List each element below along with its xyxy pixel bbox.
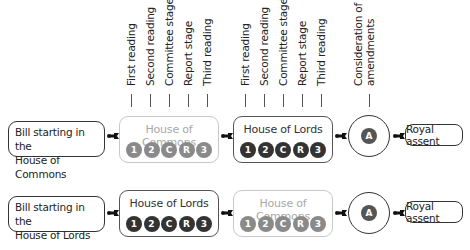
stage-second-reading-icon: 2 [258, 142, 274, 158]
start-label-line2: House of Lords [15, 228, 98, 242]
stage-report-icon: R [179, 216, 195, 232]
label-amendments: amendments [364, 19, 376, 86]
stage-second-reading-icon: 2 [258, 216, 274, 232]
stage-committee-icon: C [161, 216, 177, 232]
amendments-circle: A [348, 115, 390, 157]
tick-line [245, 94, 246, 107]
tick-line [188, 94, 189, 107]
start-label-line2: House of Commons [15, 153, 98, 181]
arrow-connector-icon [393, 133, 405, 139]
stage-third-reading-icon: 3 [196, 216, 212, 232]
start-label-line1: Bill starting in the [15, 200, 98, 228]
stage-third-reading-icon: 3 [196, 142, 212, 158]
house-box-lords: House of Lords 1 2 C R 3 [233, 116, 333, 163]
stage-report-icon: R [179, 142, 195, 158]
amendments-circle: A [348, 192, 390, 234]
label-second-reading: Second reading [258, 7, 270, 86]
stage-second-reading-icon: 2 [144, 216, 160, 232]
amendments-icon: A [361, 205, 377, 221]
label-report-stage: Report stage [182, 21, 194, 86]
start-label-line1: Bill starting in the [15, 125, 98, 153]
house-title: House of Lords [120, 197, 218, 210]
tick-line [302, 94, 303, 107]
stage-icons: 1 2 C R 3 [126, 216, 212, 232]
stage-icons: 1 2 C R 3 [240, 142, 326, 158]
arrow-connector-icon [221, 210, 233, 216]
label-consideration-of: Consideration of [352, 3, 364, 86]
stage-second-reading-icon: 2 [144, 142, 160, 158]
stage-committee-icon: C [161, 142, 177, 158]
label-second-reading: Second reading [144, 7, 156, 86]
label-committee-stage: Committee stage [277, 0, 289, 86]
royal-assent-box: Royal assent [405, 124, 463, 146]
house-title: House of Lords [234, 123, 332, 136]
tick-line [207, 94, 208, 107]
label-first-reading: First reading [125, 23, 137, 86]
stage-first-reading-icon: 1 [126, 216, 142, 232]
house-box-lords: House of Lords 1 2 C R 3 [119, 190, 219, 237]
arrow-connector-icon [107, 210, 119, 216]
tick-line [283, 94, 284, 107]
house-box-commons: House of Commons 1 2 C R 3 [233, 190, 333, 237]
arrow-connector-icon [335, 133, 347, 139]
label-report-stage: Report stage [296, 21, 308, 86]
stage-report-icon: R [293, 216, 309, 232]
arrow-connector-icon [335, 210, 347, 216]
label-committee-stage: Committee stage [163, 0, 175, 86]
tick-line [369, 94, 370, 107]
arrow-connector-icon [107, 133, 119, 139]
stage-first-reading-icon: 1 [240, 142, 256, 158]
label-third-reading: Third reading [201, 19, 213, 86]
label-third-reading: Third reading [315, 19, 327, 86]
label-first-reading: First reading [239, 23, 251, 86]
tick-line [150, 94, 151, 107]
stage-third-reading-icon: 3 [310, 142, 326, 158]
stage-first-reading-icon: 1 [240, 216, 256, 232]
start-box-commons: Bill starting in the House of Commons [8, 121, 105, 157]
stage-third-reading-icon: 3 [310, 216, 326, 232]
stage-report-icon: R [293, 142, 309, 158]
tick-line [264, 94, 265, 107]
tick-line [131, 94, 132, 107]
stage-committee-icon: C [275, 216, 291, 232]
tick-line [169, 94, 170, 107]
stage-first-reading-icon: 1 [126, 142, 142, 158]
house-box-commons: House of Commons 1 2 C R 3 [119, 116, 219, 163]
stage-committee-icon: C [275, 142, 291, 158]
amendments-icon: A [361, 128, 377, 144]
stage-icons: 1 2 C R 3 [126, 142, 212, 158]
stage-icons: 1 2 C R 3 [240, 216, 326, 232]
arrow-connector-icon [221, 133, 233, 139]
arrow-connector-icon [393, 210, 405, 216]
start-box-lords: Bill starting in the House of Lords [8, 196, 105, 232]
tick-line [321, 94, 322, 107]
royal-assent-box: Royal assent [405, 201, 463, 223]
